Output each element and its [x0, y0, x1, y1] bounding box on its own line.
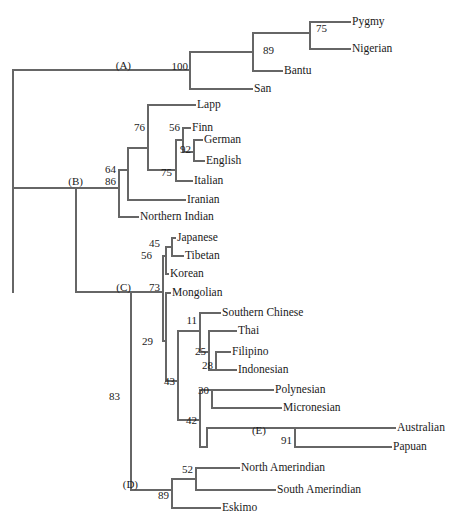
leaf-label-thai: Thai	[238, 325, 259, 337]
bootstrap-value-polynesian-micronesian: 30	[198, 385, 209, 396]
leaf-label-nigerian: Nigerian	[352, 43, 392, 55]
leaf-label-micronesian: Micronesian	[283, 402, 340, 414]
clade-annotation-a: (A)	[116, 60, 131, 71]
clade-annotation-c: (C)	[116, 282, 131, 293]
leaf-label-san: San	[254, 83, 271, 95]
bootstrap-value-thai-clade: 25	[195, 346, 206, 357]
leaf-label-eskimo: Eskimo	[222, 502, 257, 514]
bootstrap-value-african-clade: 100	[172, 61, 189, 72]
bootstrap-value-german-english: 92	[180, 144, 191, 155]
leaf-label-mongolian: Mongolian	[172, 287, 222, 299]
clade-annotation-b: (B)	[68, 176, 83, 187]
leaf-label-finn: Finn	[192, 122, 213, 134]
leaf-label-japanese: Japanese	[177, 232, 218, 244]
leaf-label-bantu: Bantu	[284, 65, 311, 77]
bootstrap-value-italian-clade: 75	[161, 167, 172, 178]
leaf-label-pygmy: Pygmy	[352, 16, 385, 28]
bootstrap-value-asian-superclade: 83	[109, 391, 120, 402]
bootstrap-value-japanese-tibetan: 45	[149, 238, 160, 249]
bootstrap-value-korean-clade: 56	[141, 250, 152, 261]
bootstrap-value-european-iranian: 64	[105, 164, 116, 175]
leaf-label-lapp: Lapp	[197, 99, 221, 111]
leaf-label-german: German	[204, 134, 241, 146]
leaf-label-iranian: Iranian	[187, 194, 220, 206]
bootstrap-value-lapp-clade: 76	[134, 122, 145, 133]
bootstrap-value-filipino-indonesian: 28	[202, 360, 213, 371]
leaf-label-indonesian: Indonesian	[238, 364, 288, 376]
leaf-label-polynesian: Polynesian	[275, 384, 325, 396]
bootstrap-value-eurasian-clade: 86	[105, 176, 116, 187]
bootstrap-value-amerindian: 52	[182, 464, 193, 475]
leaf-label-italian: Italian	[194, 175, 223, 187]
phylogenetic-tree-figure: Pygmy Nigerian Bantu San Lapp Finn Germa…	[0, 0, 464, 531]
bootstrap-value-southeast-asian: 43	[164, 376, 175, 387]
leaf-label-southern-chinese: Southern Chinese	[222, 307, 303, 319]
leaf-label-south-amerindian: South Amerindian	[277, 484, 361, 496]
leaf-label-filipino: Filipino	[232, 346, 268, 358]
leaf-label-papuan: Papuan	[393, 441, 427, 453]
bootstrap-value-australian-papuan: 91	[281, 435, 292, 446]
leaf-label-northern-indian: Northern Indian	[140, 211, 214, 223]
leaf-label-korean: Korean	[170, 268, 204, 280]
leaf-label-tibetan: Tibetan	[185, 250, 220, 262]
bootstrap-value-bantu-clade: 89	[263, 45, 274, 56]
bootstrap-value-eskimo-clade: 89	[158, 490, 169, 501]
clade-annotation-e: (E)	[252, 425, 266, 436]
bootstrap-value-mongolian-clade: 29	[142, 336, 153, 347]
bootstrap-value-pygmy-nigerian: 75	[316, 23, 327, 34]
bootstrap-value-northeast-asian: 73	[149, 282, 160, 293]
bootstrap-value-finn-clade: 56	[169, 122, 180, 133]
bootstrap-value-oceanian-clade: 42	[186, 415, 197, 426]
leaf-label-north-amerindian: North Amerindian	[241, 462, 325, 474]
clade-annotation-d: (D)	[123, 479, 138, 490]
bootstrap-value-southern-chinese-thai: 11	[186, 315, 197, 326]
leaf-label-australian: Australian	[397, 422, 445, 434]
leaf-label-english: English	[206, 155, 241, 167]
